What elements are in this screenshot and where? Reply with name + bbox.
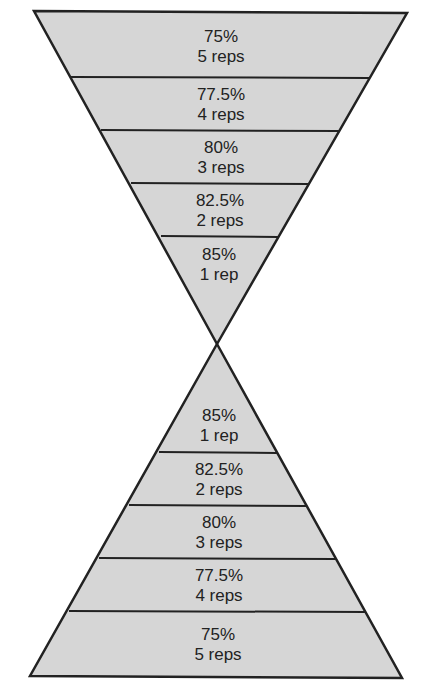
tier-reps: 1 rep (200, 265, 239, 284)
top-divider-4 (161, 236, 278, 237)
top-tier-5: 85% 1 rep (200, 245, 239, 284)
tier-reps: 1 rep (200, 426, 239, 445)
top-divider-3 (131, 183, 309, 184)
bottom-tier-5: 75% 5 reps (194, 625, 241, 664)
tier-reps: 5 reps (197, 47, 244, 66)
top-tier-1: 75% 5 reps (197, 27, 244, 66)
tier-reps: 4 reps (197, 105, 244, 124)
tier-percent: 82.5% (195, 460, 243, 479)
tier-reps: 3 reps (197, 158, 244, 177)
tier-reps: 2 reps (196, 211, 243, 230)
top-pyramid: 75% 5 reps 77.5% 4 reps 80% 3 reps 82.5%… (34, 11, 407, 344)
bottom-tier-3: 80% 3 reps (195, 513, 242, 552)
tier-percent: 80% (204, 138, 238, 157)
bottom-pyramid: 85% 1 rep 82.5% 2 reps 80% 3 reps 77.5% … (30, 344, 402, 678)
bottom-tier-2: 82.5% 2 reps (195, 460, 243, 499)
tier-percent: 75% (201, 625, 235, 644)
bottom-divider-3 (99, 558, 336, 559)
bottom-divider-4 (69, 611, 366, 612)
tier-reps: 3 reps (195, 533, 242, 552)
top-tier-2: 77.5% 4 reps (197, 85, 245, 124)
top-tier-4: 82.5% 2 reps (196, 191, 244, 230)
tier-reps: 5 reps (194, 645, 241, 664)
bottom-divider-2 (129, 505, 306, 506)
bottom-tier-4: 77.5% 4 reps (195, 566, 243, 605)
bottom-tier-1: 85% 1 rep (200, 406, 239, 445)
top-divider-1 (71, 77, 369, 78)
top-divider-2 (101, 130, 339, 131)
top-tier-3: 80% 3 reps (197, 138, 244, 177)
tier-percent: 85% (202, 406, 236, 425)
tier-reps: 2 reps (195, 480, 242, 499)
tier-percent: 75% (204, 27, 238, 46)
tier-percent: 77.5% (195, 566, 243, 585)
tier-percent: 85% (202, 245, 236, 264)
tier-percent: 80% (202, 513, 236, 532)
tier-percent: 77.5% (197, 85, 245, 104)
tier-percent: 82.5% (196, 191, 244, 210)
hourglass-pyramid-diagram: 75% 5 reps 77.5% 4 reps 80% 3 reps 82.5%… (0, 0, 423, 700)
tier-reps: 4 reps (195, 586, 242, 605)
bottom-divider-1 (159, 452, 277, 453)
